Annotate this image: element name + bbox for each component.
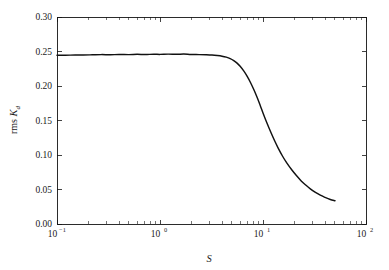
y-tick-label: 0.05	[35, 185, 52, 195]
x-axis-title: S	[206, 253, 212, 264]
y-axis-tick-labels: 0.000.050.100.150.200.250.30	[35, 12, 52, 229]
x-tick-label-base: 10	[151, 229, 161, 239]
x-tick-label-base: 10	[254, 229, 264, 239]
y-tick-label: 0.10	[35, 150, 52, 160]
x-tick-label-base: 10	[357, 229, 367, 239]
y-axis-title-prefix: rms	[8, 117, 19, 135]
plot-area-background	[57, 17, 366, 224]
x-tick-label-exponent: 1	[267, 226, 270, 233]
x-tick-label: 100	[151, 226, 167, 238]
figure-canvas: 0.000.050.100.150.200.250.30 10−11001011…	[0, 0, 389, 270]
y-axis-title-subscript: d	[14, 105, 22, 109]
x-tick-label: 101	[254, 226, 270, 238]
x-tick-label: 10−1	[48, 226, 66, 238]
x-tick-label: 102	[357, 226, 373, 238]
y-tick-label: 0.30	[35, 12, 52, 22]
x-tick-label-exponent: 0	[164, 226, 167, 233]
x-tick-label-exponent: −1	[59, 226, 66, 233]
y-tick-label: 0.25	[35, 47, 52, 57]
x-tick-label-exponent: 2	[370, 226, 373, 233]
y-axis-title-text: rms Kd	[8, 105, 22, 134]
y-tick-label: 0.15	[35, 116, 52, 126]
y-axis-title: rms Kd	[8, 105, 22, 134]
x-tick-label-base: 10	[48, 229, 58, 239]
line-chart: 0.000.050.100.150.200.250.30 10−11001011…	[0, 0, 389, 270]
y-tick-label: 0.20	[35, 81, 52, 91]
x-axis-tick-labels: 10−1100101102	[48, 226, 373, 238]
